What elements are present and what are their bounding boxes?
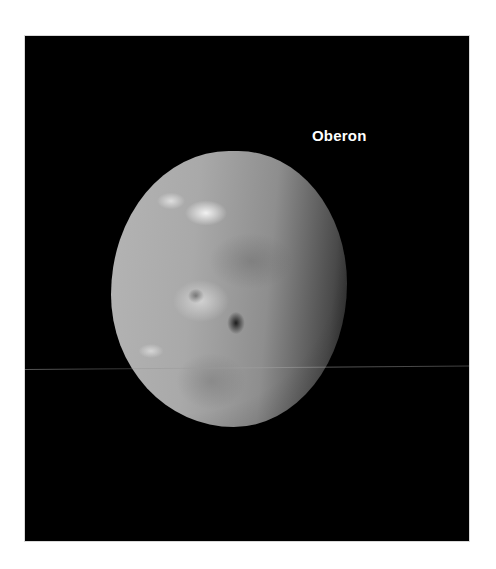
image-panel: Oberon bbox=[25, 36, 469, 541]
moon-name-label: Oberon bbox=[312, 127, 367, 144]
moon-oberon-image bbox=[111, 151, 347, 427]
